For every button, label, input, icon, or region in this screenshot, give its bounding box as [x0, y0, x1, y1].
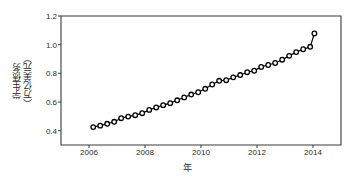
data-point: [287, 54, 292, 59]
plot-area: [0, 0, 353, 183]
data-point: [294, 50, 299, 55]
data-point: [217, 78, 222, 83]
data-point: [168, 101, 173, 106]
data-point: [301, 47, 306, 52]
data-point: [161, 103, 166, 108]
data-point: [112, 119, 117, 124]
series-line-0: [93, 33, 314, 127]
chart-figure: 学生债务 （万亿美元） 0.40.60.81.01.2 200620082010…: [0, 0, 353, 183]
data-point: [245, 70, 250, 75]
series-markers-0: [91, 31, 317, 129]
data-point: [238, 73, 243, 78]
data-point: [259, 65, 264, 70]
data-point: [147, 108, 152, 113]
data-point: [312, 31, 317, 36]
data-point: [182, 95, 187, 100]
data-point: [231, 75, 236, 80]
data-point: [133, 113, 138, 118]
data-point: [224, 78, 229, 83]
data-point: [252, 68, 257, 73]
data-point: [210, 82, 215, 87]
data-point: [140, 111, 145, 116]
data-point: [98, 123, 103, 128]
data-point: [126, 114, 131, 119]
data-point: [105, 121, 110, 126]
data-point: [91, 125, 96, 130]
data-point: [280, 57, 285, 62]
data-point: [266, 63, 271, 68]
data-point: [119, 116, 124, 121]
data-point: [308, 45, 313, 50]
data-point: [203, 87, 208, 92]
data-point: [189, 92, 194, 97]
data-point: [196, 90, 201, 95]
data-point: [273, 61, 278, 66]
data-point: [154, 105, 159, 110]
data-point: [175, 98, 180, 103]
